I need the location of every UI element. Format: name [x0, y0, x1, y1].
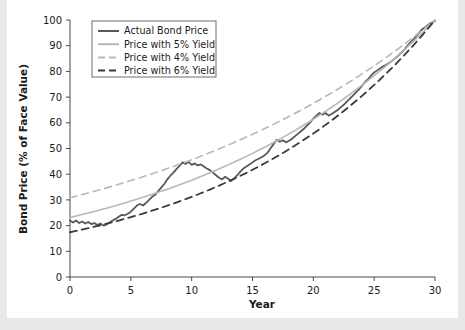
legend-label: Price with 4% Yield: [124, 52, 215, 63]
x-tick-label: 25: [368, 285, 381, 296]
x-tick-label: 15: [246, 285, 259, 296]
y-tick-label: 40: [49, 169, 62, 180]
x-tick-label: 10: [185, 285, 198, 296]
x-tick-label: 0: [67, 285, 73, 296]
y-tick-label: 80: [49, 66, 62, 77]
bond-price-line-chart: 0102030405060708090100 051015202530 Bond…: [7, 0, 458, 318]
legend-label: Price with 5% Yield: [124, 39, 215, 50]
x-axis-title: Year: [248, 298, 276, 310]
x-tick-label: 5: [128, 285, 134, 296]
x-tick-label: 20: [307, 285, 320, 296]
y-axis-title: Bond Price (% of Face Value): [17, 64, 29, 234]
y-tick-label: 0: [56, 272, 62, 283]
x-axis-ticks: 051015202530: [67, 277, 442, 296]
y-tick-label: 90: [49, 40, 62, 51]
chart-page: 0102030405060708090100 051015202530 Bond…: [0, 0, 465, 330]
y-tick-label: 20: [49, 220, 62, 231]
y-tick-label: 30: [49, 195, 62, 206]
y-tick-label: 10: [49, 246, 62, 257]
y-tick-label: 70: [49, 92, 62, 103]
y-axis-ticks: 0102030405060708090100: [43, 15, 70, 283]
chart-canvas: 0102030405060708090100 051015202530 Bond…: [7, 0, 458, 318]
chart-legend: Actual Bond PricePrice with 5% YieldPric…: [92, 21, 216, 77]
x-tick-label: 30: [429, 285, 442, 296]
y-tick-label: 100: [43, 15, 62, 26]
y-tick-label: 60: [49, 117, 62, 128]
y-tick-label: 50: [49, 143, 62, 154]
legend-label: Actual Bond Price: [124, 25, 208, 36]
legend-label: Price with 6% Yield: [124, 65, 215, 76]
